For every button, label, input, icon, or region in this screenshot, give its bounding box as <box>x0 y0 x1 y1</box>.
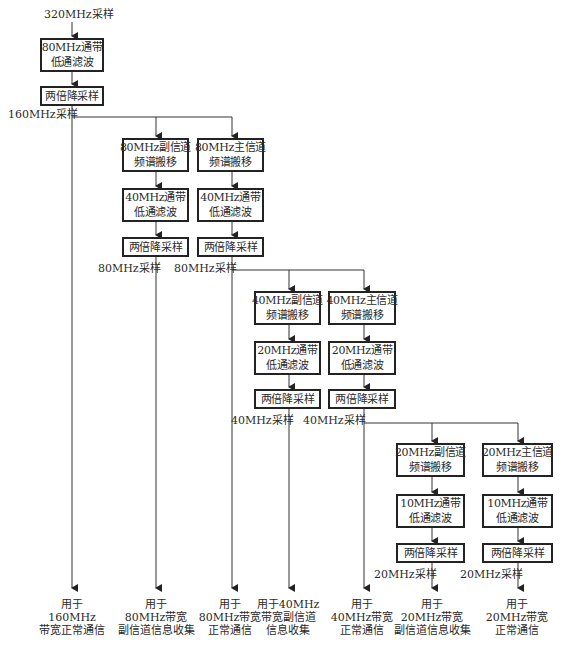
stage2-secondary-shift-block: 40MHz副信道 频谱搬移 <box>254 291 321 325</box>
block-line: 两倍降采样 <box>491 546 545 561</box>
block-line: 80MHz副信道 <box>120 140 191 155</box>
output-line: 正常通信 <box>199 624 262 637</box>
stage3-primary-shift-block: 20MHz主信道 频谱搬移 <box>482 443 553 477</box>
block-line: 低通滤波 <box>409 511 452 526</box>
block-line: 40MHz副信道 <box>252 293 323 308</box>
stage3-primary-decimate-block: 两倍降采样 <box>482 543 553 563</box>
stage2-primary-shift-block: 40MHz主信道 频谱搬移 <box>328 291 396 325</box>
stage3-primary-filter-block: 10MHz通带 低通滤波 <box>482 494 553 528</box>
output-line: 40MHz带宽 <box>331 611 394 624</box>
stage1-secondary-rate-label: 80MHz采样 <box>98 262 161 275</box>
output-line: 信息收集 <box>257 624 320 637</box>
output-line: 用于 <box>486 598 549 611</box>
block-line: 10MHz通带 <box>400 496 461 511</box>
block-line: 两倍降采样 <box>404 546 458 561</box>
output-line: 用于 <box>331 598 394 611</box>
output-line: 副信道信息收集 <box>118 624 195 637</box>
output-line: 80MHz带宽 <box>199 611 262 624</box>
output-20mhz-normal: 用于 20MHz带宽 正常通信 <box>486 598 549 637</box>
stage3-secondary-decimate-block: 两倍降采样 <box>396 543 465 563</box>
stage1-primary-rate-label: 80MHz采样 <box>174 262 237 275</box>
block-line: 两倍降采样 <box>261 392 315 407</box>
output-line: 20MHz带宽 <box>486 611 549 624</box>
block-line: 两倍降采样 <box>335 392 389 407</box>
block-line: 80MHz通带 <box>42 40 103 55</box>
block-line: 20MHz通带 <box>257 343 318 358</box>
output-line: 用于 <box>118 598 195 611</box>
stage1-primary-shift-block: 80MHz主信道 频谱搬移 <box>197 138 264 172</box>
stage0-decimate-block: 两倍降采样 <box>40 86 104 106</box>
block-line: 频谱搬移 <box>266 308 309 323</box>
output-line: 用于 <box>394 598 471 611</box>
block-line: 20MHz副信道 <box>395 445 466 460</box>
block-line: 低通滤波 <box>209 205 252 220</box>
block-line: 频谱搬移 <box>134 155 177 170</box>
input-sample-rate-label: 320MHz采样 <box>44 8 114 21</box>
stage0-rate-label: 160MHz采样 <box>8 108 78 121</box>
output-40mhz-normal: 用于 40MHz带宽 正常通信 <box>331 598 394 637</box>
stage1-primary-filter-block: 40MHz通带 低通滤波 <box>197 188 264 222</box>
decimation-tree-diagram: 320MHz采样 80MHz通带 低通滤波 两倍降采样 160MHz采样 80M… <box>0 0 565 645</box>
stage3-secondary-rate-label: 20MHz采样 <box>374 568 437 581</box>
stage1-secondary-decimate-block: 两倍降采样 <box>122 237 189 257</box>
block-line: 频谱搬移 <box>209 155 252 170</box>
block-line: 低通滤波 <box>341 358 384 373</box>
block-line: 20MHz通带 <box>332 343 393 358</box>
block-line: 40MHz通带 <box>200 190 261 205</box>
output-line: 带宽正常通信 <box>39 624 105 637</box>
block-line: 低通滤波 <box>266 358 309 373</box>
output-line: 副信道信息收集 <box>394 624 471 637</box>
block-line: 40MHz通带 <box>125 190 186 205</box>
block-line: 频谱搬移 <box>341 308 384 323</box>
stage1-secondary-shift-block: 80MHz副信道 频谱搬移 <box>122 138 189 172</box>
stage2-secondary-filter-block: 20MHz通带 低通滤波 <box>254 341 321 375</box>
stage2-primary-filter-block: 20MHz通带 低通滤波 <box>328 341 396 375</box>
block-line: 两倍降采样 <box>45 89 99 104</box>
stage3-primary-rate-label: 20MHz采样 <box>460 568 523 581</box>
output-40mhz-secondary: 用于40MHz 带宽副信道 信息收集 <box>257 598 320 637</box>
block-line: 80MHz主信道 <box>195 140 266 155</box>
block-line: 频谱搬移 <box>409 460 452 475</box>
output-80mhz-secondary: 用于 80MHz带宽 副信道信息收集 <box>118 598 195 637</box>
output-160mhz-normal: 用于 160MHz 带宽正常通信 <box>39 598 105 637</box>
stage2-primary-rate-label: 40MHz采样 <box>303 414 366 427</box>
output-line: 用于40MHz <box>257 598 320 611</box>
block-line: 两倍降采样 <box>204 240 258 255</box>
output-line: 正常通信 <box>331 624 394 637</box>
block-line: 10MHz通带 <box>487 496 548 511</box>
output-line: 20MHz带宽 <box>394 611 471 624</box>
block-line: 40MHz主信道 <box>326 293 397 308</box>
output-line: 用于 <box>199 598 262 611</box>
output-80mhz-normal: 用于 80MHz带宽 正常通信 <box>199 598 262 637</box>
stage0-lowpass-filter-block: 80MHz通带 低通滤波 <box>40 38 104 72</box>
stage3-secondary-shift-block: 20MHz副信道 频谱搬移 <box>396 443 465 477</box>
block-line: 20MHz主信道 <box>482 445 553 460</box>
stage2-primary-decimate-block: 两倍降采样 <box>328 389 396 409</box>
stage1-secondary-filter-block: 40MHz通带 低通滤波 <box>122 188 189 222</box>
output-line: 160MHz <box>39 611 105 624</box>
output-line: 带宽副信道 <box>257 611 320 624</box>
block-line: 低通滤波 <box>496 511 539 526</box>
stage2-secondary-rate-label: 40MHz采样 <box>231 414 294 427</box>
stage2-secondary-decimate-block: 两倍降采样 <box>254 389 321 409</box>
output-line: 用于 <box>39 598 105 611</box>
output-20mhz-secondary: 用于 20MHz带宽 副信道信息收集 <box>394 598 471 637</box>
block-line: 低通滤波 <box>51 55 94 70</box>
block-line: 频谱搬移 <box>496 460 539 475</box>
stage1-primary-decimate-block: 两倍降采样 <box>197 237 264 257</box>
output-line: 正常通信 <box>486 624 549 637</box>
output-line: 80MHz带宽 <box>118 611 195 624</box>
block-line: 两倍降采样 <box>129 240 183 255</box>
stage3-secondary-filter-block: 10MHz通带 低通滤波 <box>396 494 465 528</box>
block-line: 低通滤波 <box>134 205 177 220</box>
